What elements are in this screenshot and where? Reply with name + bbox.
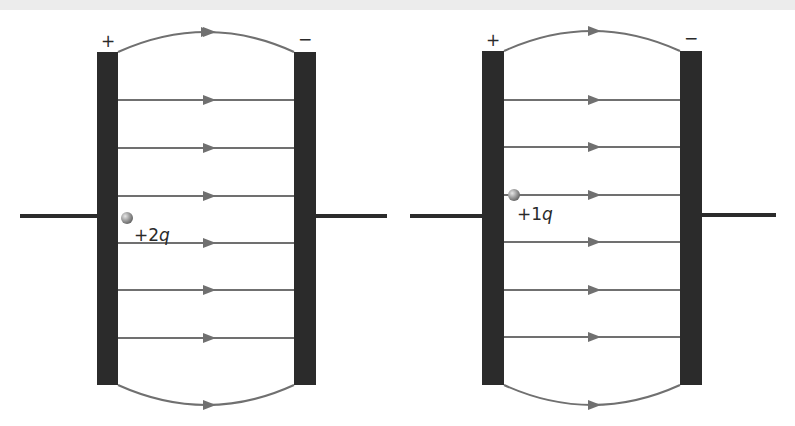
- arrow-right-icon: [203, 191, 216, 201]
- negative-plate: [680, 51, 702, 385]
- arrow-right-icon: [203, 27, 216, 37]
- arrow-right-icon: [588, 285, 601, 295]
- arrow-right-icon: [203, 333, 216, 343]
- positive-plate: [97, 52, 118, 385]
- negative-sign: −: [298, 29, 312, 49]
- arrow-right-icon: [203, 143, 216, 153]
- arrow-right-icon: [588, 142, 601, 152]
- arrow-right-icon: [588, 400, 601, 410]
- charge-label: +2q: [134, 225, 170, 245]
- point-charge: [121, 212, 133, 224]
- field-arrowheads: [588, 26, 601, 410]
- field-lines: [118, 32, 294, 405]
- arrow-right-icon: [588, 332, 601, 342]
- arrow-right-icon: [203, 285, 216, 295]
- negative-sign: −: [684, 28, 698, 48]
- arrow-right-icon: [588, 95, 601, 105]
- capacitor-right: + − +1q: [410, 26, 776, 410]
- positive-sign: +: [486, 30, 500, 50]
- field-arrowheads: [203, 27, 216, 410]
- negative-plate: [294, 52, 316, 385]
- charge-label: +1q: [517, 204, 553, 224]
- arrow-right-icon: [203, 400, 216, 410]
- capacitor-left: + − +2q: [20, 27, 387, 410]
- arrow-right-icon: [588, 237, 601, 247]
- positive-sign: +: [101, 31, 115, 51]
- arrow-right-icon: [588, 190, 601, 200]
- capacitor-diagram: + − +2q: [0, 0, 795, 426]
- arrow-right-icon: [588, 26, 601, 36]
- point-charge: [508, 189, 520, 201]
- positive-plate: [482, 51, 504, 385]
- arrow-right-icon: [203, 238, 216, 248]
- arrow-right-icon: [203, 95, 216, 105]
